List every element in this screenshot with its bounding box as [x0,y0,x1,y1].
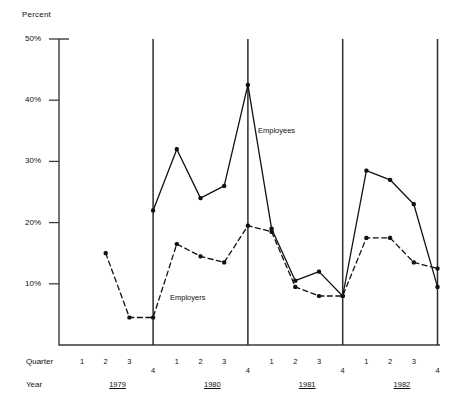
quarter-tick-label: 3 [217,357,231,366]
chart-container: Percent Employees Employers Quarter Year… [0,0,463,399]
y-axis-tick-label: 40% [15,95,41,104]
y-axis-tick-label: 30% [15,156,41,165]
quarter-tick-label: 2 [288,357,302,366]
y-axis-tick-label: 50% [15,34,41,43]
quarter-tick-label: 3 [312,357,326,366]
quarter-tick-label: 1 [359,357,373,366]
y-axis-tick-label: 20% [15,218,41,227]
year-axis-label: 1980 [192,380,232,389]
quarter-tick-label: 1 [265,357,279,366]
quarter-tick-label: 2 [383,357,397,366]
quarter-tick-label: 3 [407,357,421,366]
employees-series-label: Employees [258,126,295,135]
year-axis-label: 1982 [382,380,422,389]
year-axis-label: 1979 [98,380,138,389]
year-row-label: Year [26,380,42,389]
quarter-row-label: Quarter [26,357,53,366]
quarter-tick-label: 1 [75,357,89,366]
quarter-tick-label: 2 [99,357,113,366]
quarter-tick-label: 4 [241,366,255,375]
quarter-tick-label: 4 [336,366,350,375]
quarter-tick-label: 2 [194,357,208,366]
quarter-tick-label: 4 [146,366,160,375]
quarter-tick-label: 4 [431,366,445,375]
year-axis-label: 1981 [287,380,327,389]
chart-plot-area [0,0,463,399]
employers-series-label: Employers [170,293,205,302]
y-axis-tick-label: 10% [15,279,41,288]
quarter-tick-label: 1 [170,357,184,366]
quarter-tick-label: 3 [122,357,136,366]
